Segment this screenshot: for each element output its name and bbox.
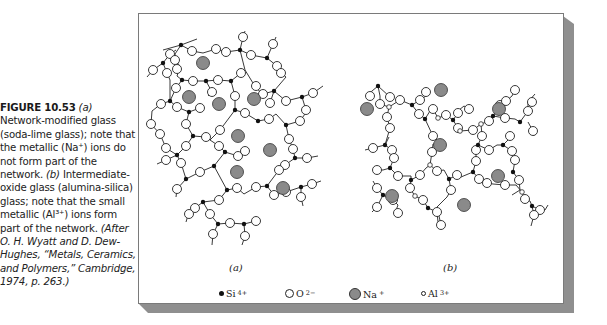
sublabel-b: (b) <box>443 262 457 273</box>
na-circle-icon <box>349 288 361 300</box>
legend-na-label: Na <box>363 289 377 300</box>
diagram-a-network-modified-glass <box>147 31 324 245</box>
legend-al-label: Al <box>428 288 438 299</box>
diagram-b-intermediate-oxide-glass <box>361 84 549 230</box>
sublabel-a: (a) <box>229 262 243 273</box>
legend-si: Si4+ <box>219 288 247 299</box>
legend-si-charge: 4+ <box>238 289 248 297</box>
legend-si-label: Si <box>226 288 236 299</box>
glass-network-diagrams: .b { stroke: #222; stroke-width: 0.9; fi… <box>0 0 607 325</box>
al-circle-icon <box>421 291 426 296</box>
legend-na: Na+ <box>349 288 384 300</box>
legend-al: Al3+ <box>421 288 450 299</box>
legend-na-charge: + <box>379 289 384 297</box>
si-dot-icon <box>219 291 224 296</box>
legend-o-charge: 2− <box>306 289 316 297</box>
legend-o-label: O <box>296 288 304 299</box>
o-circle-icon <box>285 289 294 298</box>
legend-o: O2− <box>285 288 315 299</box>
oxygen-ions-b <box>366 86 545 230</box>
legend-al-charge: 3+ <box>440 289 450 297</box>
